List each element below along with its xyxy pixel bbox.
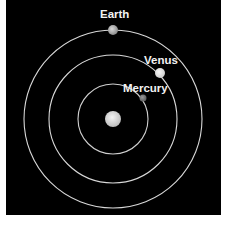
label-mercury: Mercury xyxy=(123,82,168,94)
sun xyxy=(105,111,121,127)
planet-mercury xyxy=(140,95,147,102)
orbit-diagram xyxy=(0,0,225,232)
label-earth: Earth xyxy=(100,8,129,20)
planet-earth xyxy=(108,25,118,35)
label-venus: Venus xyxy=(144,54,178,66)
planet-venus xyxy=(155,68,165,78)
